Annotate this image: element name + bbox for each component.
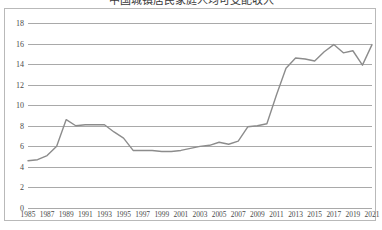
- x-axis-tick-label: 2017: [326, 210, 341, 219]
- y-axis-tick-label: 6: [20, 142, 24, 151]
- series-line: [28, 45, 372, 161]
- y-axis-tick-label: 10: [16, 101, 24, 110]
- x-axis-tick-label: 1987: [40, 210, 55, 219]
- y-axis-tick-label: 14: [16, 60, 24, 69]
- x-axis-tick-label: 2021: [365, 210, 380, 219]
- series-layer: [28, 23, 372, 208]
- gridline: [28, 208, 372, 209]
- x-axis-tick-label: 2001: [173, 210, 188, 219]
- x-axis-tick-label: 1997: [135, 210, 150, 219]
- x-axis-tick-label: 2009: [250, 210, 265, 219]
- x-axis-tick-label: 2007: [231, 210, 246, 219]
- y-axis-tick-label: 16: [16, 39, 24, 48]
- x-axis-tick-label: 1985: [21, 210, 36, 219]
- x-axis-tick-label: 1993: [97, 210, 112, 219]
- x-axis-tick-label: 2019: [345, 210, 360, 219]
- x-axis-tick-label: 2011: [269, 210, 284, 219]
- chart-frame: 181614121086420 198519871989199119931995…: [4, 8, 376, 221]
- y-axis-tick-label: 18: [16, 19, 24, 28]
- x-axis-tick-label: 1989: [59, 210, 74, 219]
- y-axis-tick-label: 12: [16, 80, 24, 89]
- y-axis-tick-label: 4: [20, 162, 24, 171]
- x-axis-tick-label: 1991: [78, 210, 93, 219]
- y-axis-labels: 181614121086420: [5, 9, 27, 222]
- x-axis-tick-label: 1999: [154, 210, 169, 219]
- x-axis-tick-label: 1995: [116, 210, 131, 219]
- chart-title: 中国城镇居民家庭人均可支配收入: [0, 0, 382, 7]
- x-axis-tick-label: 2013: [288, 210, 303, 219]
- x-axis-tick-label: 2005: [212, 210, 227, 219]
- x-axis-tick-label: 2003: [193, 210, 208, 219]
- plot-area: [28, 23, 372, 208]
- y-axis-tick-label: 8: [20, 121, 24, 130]
- chart-title-strip: 中国城镇居民家庭人均可支配收入: [0, 0, 382, 7]
- y-axis-tick-label: 2: [20, 183, 24, 192]
- line-chart-svg: [28, 23, 372, 208]
- x-axis-tick-label: 2015: [307, 210, 322, 219]
- x-axis-labels: 1985198719891991199319951997199920012003…: [28, 210, 372, 222]
- chart-page: 中国城镇居民家庭人均可支配收入 181614121086420 19851987…: [0, 0, 382, 230]
